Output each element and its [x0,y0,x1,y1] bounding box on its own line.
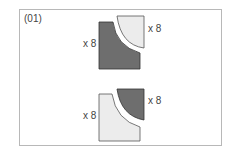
pieces-drawing [0,0,232,156]
top-quarter-count: x 8 [148,23,161,34]
bottom-quarter-count: x 8 [148,95,161,106]
bottom-large-count: x 8 [83,110,96,121]
top-large-count: x 8 [83,38,96,49]
